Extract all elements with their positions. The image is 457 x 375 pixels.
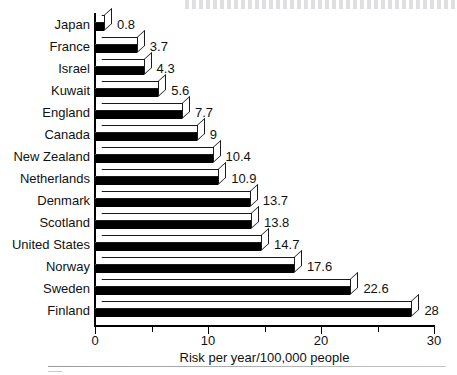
category-label: France bbox=[50, 36, 90, 58]
bar-value-label: 14.7 bbox=[274, 237, 299, 253]
category-label: Sweden bbox=[43, 278, 90, 300]
bar-front-face bbox=[95, 66, 144, 75]
bar-row: Scotland13.8 bbox=[0, 212, 457, 234]
bar-row: New Zealand10.4 bbox=[0, 146, 457, 168]
bar-row: Israel4.3 bbox=[0, 58, 457, 80]
bar-front-face bbox=[95, 22, 104, 31]
x-tick-label: 30 bbox=[414, 333, 454, 348]
bar bbox=[95, 256, 302, 278]
bar bbox=[95, 190, 258, 212]
scan-artifact-bottom-stub bbox=[48, 371, 62, 372]
category-label: Japan bbox=[55, 14, 90, 36]
bar-top-face bbox=[95, 81, 165, 89]
x-tick-label: 20 bbox=[301, 333, 341, 348]
category-label: Scotland bbox=[39, 212, 90, 234]
bar-row: Kuwait5.6 bbox=[0, 80, 457, 102]
bar-value-label: 5.6 bbox=[171, 83, 189, 99]
bar-front-face bbox=[95, 176, 218, 185]
bar bbox=[95, 146, 221, 168]
bar-row: England7.7 bbox=[0, 102, 457, 124]
bar-front-face bbox=[95, 308, 411, 317]
bar bbox=[95, 102, 190, 124]
category-label: Norway bbox=[46, 256, 90, 278]
bar-top-face bbox=[95, 103, 189, 111]
x-tick-minor bbox=[265, 327, 266, 332]
bar-front-face bbox=[95, 132, 197, 141]
bar-row: France3.7 bbox=[0, 36, 457, 58]
bar-top-face bbox=[95, 235, 268, 243]
bar-value-label: 13.7 bbox=[263, 193, 288, 209]
bar-value-label: 9 bbox=[210, 127, 217, 143]
bar-top-face bbox=[95, 279, 358, 287]
bar-end-cap bbox=[104, 8, 112, 31]
bar bbox=[95, 58, 152, 80]
bar-front-face bbox=[95, 220, 251, 229]
bar-row: United States14.7 bbox=[0, 234, 457, 256]
bar-row: Sweden22.6 bbox=[0, 278, 457, 300]
bar bbox=[95, 80, 166, 102]
category-label: Netherlands bbox=[20, 168, 90, 190]
category-label: Denmark bbox=[37, 190, 90, 212]
bar bbox=[95, 124, 205, 146]
bar-top-face bbox=[95, 301, 419, 309]
bar-value-label: 3.7 bbox=[150, 39, 168, 55]
x-tick-minor bbox=[378, 327, 379, 332]
bar-front-face bbox=[95, 264, 294, 273]
category-label: England bbox=[42, 102, 90, 124]
bar-front-face bbox=[95, 110, 182, 119]
bar bbox=[95, 278, 358, 300]
bar-row: Denmark13.7 bbox=[0, 190, 457, 212]
bar-top-face bbox=[95, 257, 301, 265]
x-tick-label: 0 bbox=[75, 333, 115, 348]
bar-top-face bbox=[95, 125, 204, 133]
bar-front-face bbox=[95, 154, 213, 163]
x-axis-title: Risk per year/100,000 people bbox=[94, 350, 435, 365]
category-label: New Zealand bbox=[13, 146, 90, 168]
bar-value-label: 10.9 bbox=[231, 171, 256, 187]
bar-top-face bbox=[95, 191, 257, 199]
bar bbox=[95, 168, 226, 190]
bar-front-face bbox=[95, 88, 158, 97]
bar-row: Norway17.6 bbox=[0, 256, 457, 278]
bar-row: Canada9 bbox=[0, 124, 457, 146]
x-tick-label: 10 bbox=[188, 333, 228, 348]
bar bbox=[95, 300, 419, 322]
bar bbox=[95, 14, 112, 36]
bar-value-label: 0.8 bbox=[117, 17, 135, 33]
bar-row: Finland28 bbox=[0, 300, 457, 322]
scan-artifact-bottom bbox=[48, 366, 446, 367]
x-tick-minor bbox=[152, 327, 153, 332]
bar-top-face bbox=[95, 59, 151, 67]
bar-front-face bbox=[95, 44, 137, 53]
category-label: Israel bbox=[58, 58, 90, 80]
bar-value-label: 22.6 bbox=[363, 281, 388, 297]
category-label: Canada bbox=[44, 124, 90, 146]
bar-row: Japan0.8 bbox=[0, 14, 457, 36]
bar bbox=[95, 212, 259, 234]
bar-front-face bbox=[95, 198, 250, 207]
bar bbox=[95, 234, 269, 256]
bar-front-face bbox=[95, 286, 350, 295]
bar-value-label: 28 bbox=[424, 303, 438, 319]
category-label: Finland bbox=[47, 300, 90, 322]
category-label: Kuwait bbox=[51, 80, 90, 102]
bar-top-face bbox=[95, 213, 258, 221]
bar-value-label: 10.4 bbox=[226, 149, 251, 165]
horizontal-bar-chart: 0102030 Risk per year/100,000 people Jap… bbox=[0, 0, 457, 375]
bar-front-face bbox=[95, 242, 261, 251]
bar-top-face bbox=[95, 147, 220, 155]
bar bbox=[95, 36, 145, 58]
bar-top-face bbox=[95, 169, 225, 177]
bar-row: Netherlands10.9 bbox=[0, 168, 457, 190]
bar-value-label: 17.6 bbox=[307, 259, 332, 275]
category-label: United States bbox=[12, 234, 90, 256]
